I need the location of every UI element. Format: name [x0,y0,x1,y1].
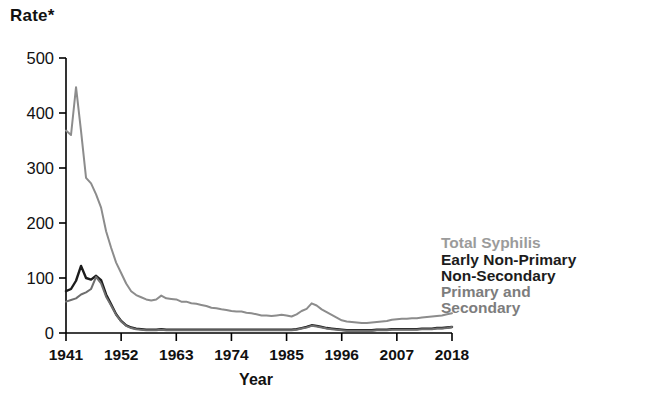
y-tick-label: 300 [26,159,54,177]
x-tick-label: 1974 [214,346,249,363]
x-tick-label: 1996 [324,346,359,363]
legend-item-early-non-primary: Early Non-Primary Non-Secondary [441,252,666,284]
y-tick-label: 500 [26,49,54,67]
legend-item-total-syphilis: Total Syphilis [441,235,666,251]
y-tick-label: 200 [26,214,54,232]
axis-lines [66,58,452,333]
series-line [66,266,452,330]
legend-label-early-line2: Non-Secondary [441,268,666,284]
series-line [66,87,452,323]
series-line [66,277,452,331]
chart-legend: Total Syphilis Early Non-Primary Non-Sec… [441,235,666,316]
legend-item-primary-secondary: Primary and Secondary [441,284,666,316]
x-axis-title: Year [176,371,336,389]
x-tick-label: 2007 [380,346,414,363]
x-tick-label: 1941 [49,346,84,363]
x-tick-marks [66,333,452,341]
x-tick-labels: 19411952196319741985199620072018 [49,346,470,363]
x-tick-label: 2018 [435,346,470,363]
x-tick-label: 1963 [159,346,194,363]
y-tick-label: 100 [26,269,54,287]
chart-container: Rate* 0100200300400500 19411952196319741… [0,0,668,415]
legend-label-total-syphilis: Total Syphilis [441,235,666,251]
y-tick-labels: 0100200300400500 [26,49,54,342]
y-tick-label: 400 [26,104,54,122]
y-tick-label: 0 [45,324,54,342]
x-tick-label: 1952 [104,346,138,363]
legend-label-ps-line1: Primary and [441,284,666,300]
legend-label-ps-line2: Secondary [441,300,666,316]
line-chart-plot: 0100200300400500 19411952196319741985199… [0,0,668,415]
x-tick-label: 1985 [269,346,304,363]
legend-label-early-line1: Early Non-Primary [441,252,666,268]
data-series-group [66,87,452,331]
